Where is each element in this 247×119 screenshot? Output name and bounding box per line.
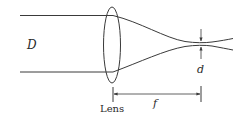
converging-lower-ray bbox=[113, 45, 233, 72]
lens-label: Lens bbox=[100, 103, 124, 114]
focal-length-label: f bbox=[152, 97, 159, 110]
lens-focus-diagram: D d Lens f bbox=[0, 0, 247, 119]
beam-diameter-label: D bbox=[26, 38, 37, 52]
converging-upper-ray bbox=[113, 16, 233, 43]
spot-diameter-label: d bbox=[197, 63, 204, 76]
